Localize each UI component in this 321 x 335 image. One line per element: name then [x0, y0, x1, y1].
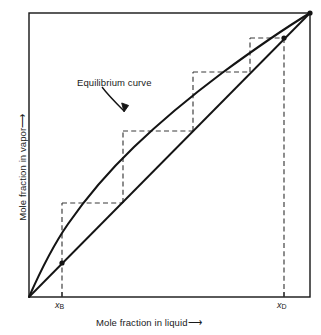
equilibrium-curve-annotation-arrow: [102, 87, 129, 113]
y-axis-arrow-icon: ⟶: [17, 114, 28, 128]
plot-canvas: [0, 0, 321, 335]
distillate-point-marker: [281, 35, 286, 40]
x-axis-label-text: Mole fraction in liquid: [96, 317, 188, 328]
x-tick-label-xd-sub: D: [282, 303, 287, 310]
equilibrium-curve-annotation-label: Equilibrium curve: [77, 78, 152, 88]
y-axis-label-text: Mole fraction in vapor: [17, 128, 28, 221]
y-axis-label: Mole fraction in vapor⟶: [18, 92, 28, 242]
top-corner-point-marker: [307, 10, 312, 15]
mccabe-thiele-figure: Mole fraction in liquid⟶ Mole fraction i…: [0, 0, 321, 335]
x-tick-label-xb: xB: [55, 300, 64, 310]
x-tick-label-xd: xD: [277, 300, 287, 310]
x-tick-label-xb-sub: B: [60, 303, 65, 310]
x-axis-arrow-icon: ⟶: [188, 317, 202, 328]
diagonal-operating-line: [29, 13, 310, 297]
x-axis-label: Mole fraction in liquid⟶: [96, 318, 202, 328]
bottoms-point-marker: [59, 260, 64, 265]
